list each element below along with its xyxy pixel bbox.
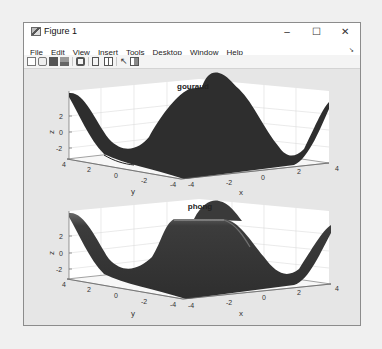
edit-plot-arrow-icon[interactable]: ↖ — [120, 57, 129, 66]
save-icon[interactable] — [49, 57, 58, 66]
new-figure-icon[interactable] — [27, 57, 36, 66]
y-axis-label: y — [131, 309, 135, 318]
axes-phong[interactable]: phong 2 0 -2 z 4 2 0 -2 -4 -4 -2 0 2 4 y… — [24, 189, 360, 329]
x-tick: 4 — [335, 285, 339, 292]
x-tick: -2 — [226, 179, 232, 186]
x-tick: 2 — [297, 289, 301, 296]
x-tick: -4 — [188, 302, 194, 309]
link-plot-icon[interactable] — [92, 57, 99, 66]
x-tick: -4 — [188, 181, 194, 188]
toolbar: ↖ — [24, 55, 360, 69]
toolbar-separator — [116, 57, 117, 66]
x-tick: 0 — [261, 174, 265, 181]
x-tick: 2 — [297, 168, 301, 175]
dock-arrow-icon[interactable]: ➘ — [349, 46, 354, 53]
print-icon[interactable] — [60, 57, 69, 66]
maximize-button[interactable]: ☐ — [305, 24, 327, 40]
y-tick: 2 — [87, 166, 91, 173]
y-tick: 4 — [62, 281, 66, 288]
y-tick: -4 — [170, 301, 176, 308]
z-axis-label: z — [47, 130, 56, 134]
axes-gouraud[interactable]: gouraud 2 0 -2 z 4 2 0 -2 -4 -4 -2 0 2 4… — [24, 69, 360, 191]
y-tick: 0 — [114, 292, 118, 299]
z-tick: -2 — [56, 266, 62, 273]
y-tick: -2 — [141, 298, 147, 305]
insert-colorbar-icon[interactable] — [104, 57, 113, 66]
y-tick: 2 — [87, 286, 91, 293]
toolbar-separator — [72, 57, 73, 66]
window-title: Figure 1 — [44, 26, 77, 36]
x-axis-label: x — [239, 309, 243, 318]
y-tick: -2 — [141, 177, 147, 184]
figure-window: Figure 1 – ☐ ✕ FileEditViewInsertToolsDe… — [23, 22, 361, 326]
figure-canvas[interactable]: gouraud 2 0 -2 z 4 2 0 -2 -4 -4 -2 0 2 4… — [24, 69, 360, 325]
title-bar[interactable]: Figure 1 – ☐ ✕ — [24, 23, 360, 41]
y-tick: -4 — [170, 181, 176, 188]
y-tick: 0 — [114, 172, 118, 179]
open-file-icon[interactable] — [38, 57, 47, 66]
print-preview-icon[interactable] — [76, 57, 85, 66]
plot-title: gouraud — [177, 82, 209, 91]
z-tick: -2 — [56, 145, 62, 152]
minimize-button[interactable]: – — [276, 24, 298, 40]
close-button[interactable]: ✕ — [334, 24, 356, 40]
y-tick: 4 — [62, 161, 66, 168]
z-tick: 2 — [59, 113, 63, 120]
z-tick: 0 — [59, 250, 63, 257]
matlab-figure-icon — [31, 27, 41, 36]
x-tick: 4 — [335, 165, 339, 172]
property-inspector-icon[interactable] — [130, 57, 139, 66]
x-tick: -2 — [226, 299, 232, 306]
x-tick: 0 — [262, 294, 266, 301]
z-tick: 0 — [59, 129, 63, 136]
z-axis-label: z — [47, 251, 56, 255]
toolbar-separator — [88, 57, 89, 66]
menu-bar: FileEditViewInsertToolsDesktopWindowHelp… — [24, 41, 360, 55]
z-tick: 2 — [59, 233, 63, 240]
plot-title: phong — [188, 202, 212, 211]
